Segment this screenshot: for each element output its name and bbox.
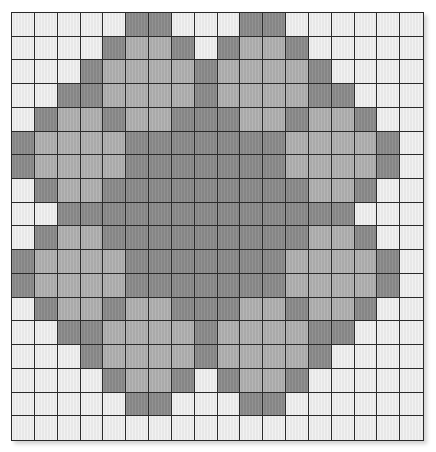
grid-cell-dark-gray xyxy=(309,60,332,84)
grid-cell-white xyxy=(149,416,172,440)
grid-cell-light-gray xyxy=(355,132,378,156)
grid-cell-white xyxy=(400,345,423,369)
grid-cell-white xyxy=(355,393,378,417)
grid-cell-white xyxy=(377,298,400,322)
grid-cell-dark-gray xyxy=(309,203,332,227)
grid-cell-light-gray xyxy=(355,250,378,274)
grid-cell-dark-gray xyxy=(172,37,195,61)
grid-cell-light-gray xyxy=(81,274,104,298)
grid-cell-dark-gray xyxy=(263,226,286,250)
grid-cell-light-gray xyxy=(126,84,149,108)
grid-cell-dark-gray xyxy=(103,37,126,61)
grid-cell-dark-gray xyxy=(126,13,149,37)
grid-cell-white xyxy=(195,369,218,393)
grid-cell-dark-gray xyxy=(263,155,286,179)
grid-cell-dark-gray xyxy=(103,179,126,203)
grid-cell-white xyxy=(126,416,149,440)
grid-cell-white xyxy=(218,393,241,417)
grid-cell-dark-gray xyxy=(309,345,332,369)
grid-cell-dark-gray xyxy=(149,203,172,227)
grid-cell-dark-gray xyxy=(149,250,172,274)
grid-cell-dark-gray xyxy=(286,179,309,203)
grid-cell-dark-gray xyxy=(240,250,263,274)
grid-cell-light-gray xyxy=(332,274,355,298)
grid-cell-white xyxy=(103,416,126,440)
grid-cell-light-gray xyxy=(58,132,81,156)
grid-cell-light-gray xyxy=(240,345,263,369)
grid-cell-dark-gray xyxy=(81,84,104,108)
grid-cell-white xyxy=(332,393,355,417)
grid-cell-white xyxy=(286,393,309,417)
grid-cell-dark-gray xyxy=(172,298,195,322)
grid-cell-light-gray xyxy=(149,298,172,322)
grid-cell-dark-gray xyxy=(149,226,172,250)
grid-cell-dark-gray xyxy=(377,132,400,156)
grid-cell-white xyxy=(35,416,58,440)
grid-cell-white xyxy=(35,393,58,417)
grid-cell-light-gray xyxy=(332,132,355,156)
grid-cell-dark-gray xyxy=(126,393,149,417)
grid-cell-dark-gray xyxy=(172,179,195,203)
grid-cell-light-gray xyxy=(309,274,332,298)
grid-cell-light-gray xyxy=(35,274,58,298)
grid-cell-dark-gray xyxy=(240,132,263,156)
grid-cell-white xyxy=(377,416,400,440)
grid-cell-dark-gray xyxy=(309,321,332,345)
grid-cell-white xyxy=(12,84,35,108)
grid-cell-light-gray xyxy=(103,250,126,274)
grid-cell-white xyxy=(35,84,58,108)
grid-cell-white xyxy=(195,37,218,61)
grid-cell-white xyxy=(332,13,355,37)
grid-cell-dark-gray xyxy=(103,369,126,393)
grid-cell-dark-gray xyxy=(218,37,241,61)
grid-cell-light-gray xyxy=(240,84,263,108)
grid-cell-white xyxy=(81,369,104,393)
grid-cell-dark-gray xyxy=(286,203,309,227)
grid-cell-light-gray xyxy=(355,155,378,179)
grid-cell-white xyxy=(400,203,423,227)
grid-cell-light-gray xyxy=(309,132,332,156)
grid-cell-dark-gray xyxy=(195,155,218,179)
grid-cell-white xyxy=(309,393,332,417)
grid-cell-white xyxy=(355,13,378,37)
grid-cell-light-gray xyxy=(126,37,149,61)
grid-cell-light-gray xyxy=(103,345,126,369)
grid-cell-white xyxy=(12,416,35,440)
grid-cell-light-gray xyxy=(218,321,241,345)
grid-cell-dark-gray xyxy=(332,321,355,345)
grid-cell-white xyxy=(355,84,378,108)
grid-cell-dark-gray xyxy=(35,179,58,203)
grid-cell-white xyxy=(377,226,400,250)
grid-cell-light-gray xyxy=(149,345,172,369)
grid-cell-light-gray xyxy=(332,155,355,179)
grid-cell-dark-gray xyxy=(263,250,286,274)
grid-cell-white xyxy=(12,393,35,417)
grid-cell-white xyxy=(58,345,81,369)
grid-cell-light-gray xyxy=(332,179,355,203)
grid-cell-white xyxy=(35,13,58,37)
grid-cell-dark-gray xyxy=(263,203,286,227)
grid-cell-white xyxy=(35,203,58,227)
grid-cell-light-gray xyxy=(58,108,81,132)
grid-cell-dark-gray xyxy=(172,203,195,227)
grid-cell-dark-gray xyxy=(149,155,172,179)
grid-cell-white xyxy=(400,226,423,250)
grid-cell-white xyxy=(400,179,423,203)
grid-cell-dark-gray xyxy=(195,274,218,298)
grid-cell-dark-gray xyxy=(35,108,58,132)
grid-cell-dark-gray xyxy=(377,274,400,298)
grid-cell-white xyxy=(332,60,355,84)
grid-cell-light-gray xyxy=(286,132,309,156)
grid-cell-white xyxy=(12,226,35,250)
grid-cell-light-gray xyxy=(240,369,263,393)
grid-cell-light-gray xyxy=(172,321,195,345)
grid-cell-white xyxy=(103,393,126,417)
grid-cell-dark-gray xyxy=(195,203,218,227)
grid-cell-dark-gray xyxy=(149,132,172,156)
grid-cell-white xyxy=(355,60,378,84)
grid-cell-light-gray xyxy=(263,37,286,61)
grid-cell-light-gray xyxy=(58,298,81,322)
grid-cell-white xyxy=(12,345,35,369)
grid-cell-light-gray xyxy=(286,321,309,345)
grid-cell-white xyxy=(400,13,423,37)
